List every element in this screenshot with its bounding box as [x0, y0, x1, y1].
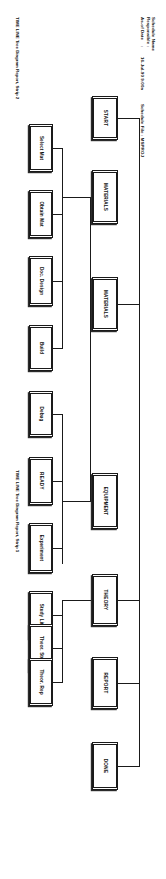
- report-header-separators: : : :: [140, 46, 156, 48]
- node-ready-label: READY: [39, 472, 44, 490]
- node-materials-summary-label: MATERIALS: [103, 183, 108, 211]
- connector-study-lit-drop: [53, 615, 63, 616]
- node-report[interactable]: REPORT: [92, 657, 118, 709]
- connector-start-up: [118, 118, 140, 119]
- connector-level2-trunk: [90, 197, 91, 501]
- node-theor-rep[interactable]: Theor. Rep: [29, 658, 53, 706]
- connector-obtain-mat-drop: [53, 214, 63, 215]
- footer-strip-2: TIME LINE Tree Diagram Report, Strip 2: [15, 17, 20, 99]
- node-theor-stu-label: Theor. Stu: [39, 636, 44, 660]
- responsible-separator: :: [145, 46, 150, 48]
- node-done-label: DONE: [103, 759, 108, 774]
- node-doc-design-label: Doc. Design: [39, 267, 44, 295]
- connector-equipment-children-riser: [63, 501, 91, 502]
- node-theory-label: THEORY: [103, 589, 108, 610]
- schedule-name-separator: :: [151, 46, 156, 48]
- connector-select-mat-drop: [53, 148, 63, 149]
- node-materials-milestone-label: MATERIALS: [103, 290, 108, 318]
- node-study-lit-label: Study Lit.: [39, 604, 44, 626]
- node-experiment-label: Experiment: [39, 535, 44, 562]
- as-of-date-separator: :: [140, 46, 145, 48]
- node-theor-rep-label: Theor. Rep: [39, 669, 44, 694]
- node-start[interactable]: START: [92, 96, 118, 140]
- connector-equipment-children-bar: [62, 414, 63, 564]
- connector-main-trunk: [139, 118, 140, 766]
- node-doc-design[interactable]: Doc. Design: [29, 256, 53, 306]
- node-build-label: Build: [39, 342, 44, 354]
- node-experiment[interactable]: Experiment: [29, 523, 53, 573]
- connector-report-riser: [118, 683, 140, 684]
- node-select-mat[interactable]: Select Mat: [29, 124, 53, 172]
- node-equipment-label: EQUIPMENT: [103, 487, 108, 516]
- node-ready[interactable]: READY: [29, 457, 53, 505]
- connector-materials-children-bar: [62, 148, 63, 348]
- connector-experiment-drop: [53, 548, 63, 549]
- node-debug[interactable]: Debug: [29, 391, 53, 437]
- connector-doc-design-drop: [53, 281, 63, 282]
- connector-theor-rep-drop: [53, 682, 63, 683]
- connector-materials-top-riser: [118, 304, 140, 305]
- node-equipment[interactable]: EQUIPMENT: [92, 473, 118, 529]
- node-obtain-mat-label: Obtain Mat: [39, 201, 44, 226]
- node-done[interactable]: DONE: [92, 742, 118, 790]
- node-report-label: REPORT: [103, 672, 108, 693]
- connector-ready-drop: [53, 481, 63, 482]
- connector-done-riser: [118, 766, 140, 767]
- node-materials-summary[interactable]: MATERIALS: [92, 170, 118, 224]
- node-theory[interactable]: THEORY: [92, 574, 118, 626]
- node-build[interactable]: Build: [29, 325, 53, 371]
- node-materials-milestone[interactable]: MATERIALS: [92, 277, 118, 331]
- schedule-file-value: Schedule File : MSPROJ: [140, 104, 145, 157]
- connector-theory-riser: [118, 600, 140, 601]
- footer-strip-1: TIME LINE Tree Diagram Report, Strip 1: [15, 470, 20, 552]
- connector-theor-stu-drop: [53, 648, 63, 649]
- connector-debug-drop: [53, 414, 63, 415]
- as-of-date-value: 16-Jul-90 9:00a: [140, 57, 145, 90]
- node-obtain-mat[interactable]: Obtain Mat: [29, 190, 53, 238]
- connector-materials-children-riser: [63, 197, 91, 198]
- node-start-label: START: [103, 110, 108, 127]
- connector-theory-children-bar: [62, 600, 63, 682]
- connector-build-drop: [53, 348, 63, 349]
- tree-diagram-report-page: Schedule Name Responsible As-of Date : :…: [0, 0, 166, 879]
- node-select-mat-label: Select Mat: [39, 136, 44, 160]
- node-debug-label: Debug: [39, 406, 44, 421]
